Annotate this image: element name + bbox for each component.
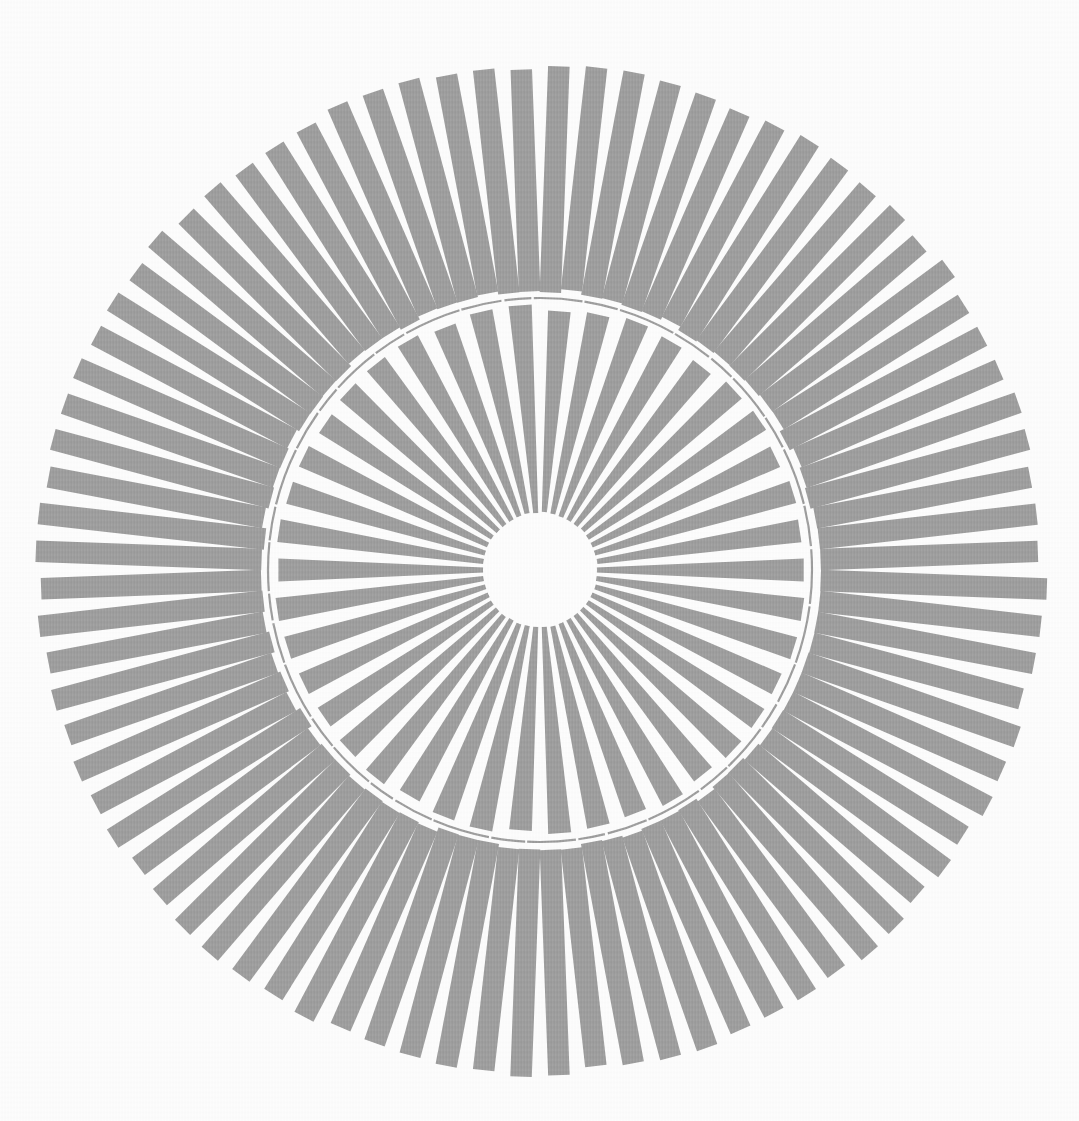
illusion-plate: [0, 0, 1079, 1121]
center-hole: [483, 513, 597, 627]
radial-burst-figure: [0, 0, 1079, 1121]
